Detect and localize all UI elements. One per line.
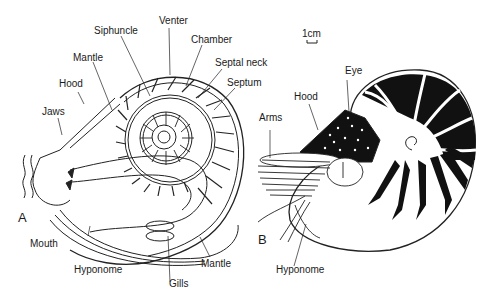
- label-scale-bar: 1cm: [302, 29, 321, 39]
- panel-a-shell: [70, 77, 244, 264]
- label-gills: Gills: [169, 279, 188, 289]
- label-jaws: Jaws: [42, 107, 65, 117]
- label-siphuncle: Siphuncle: [94, 26, 138, 36]
- label-hood-b: Hood: [294, 92, 318, 102]
- panel-label-b: B: [258, 233, 267, 246]
- label-hyponome-a: Hyponome: [74, 265, 122, 275]
- label-mouth: Mouth: [30, 239, 58, 249]
- label-chamber: Chamber: [191, 35, 232, 45]
- label-mantle-top: Mantle: [73, 53, 103, 63]
- label-hood-a: Hood: [59, 79, 83, 89]
- label-venter: Venter: [159, 16, 188, 26]
- diagram-drawing: [0, 0, 489, 299]
- scale-bar: [307, 40, 317, 43]
- panel-label-a: A: [18, 211, 27, 224]
- label-septum: Septum: [227, 78, 261, 88]
- label-eye: Eye: [345, 66, 362, 76]
- label-mantle-bottom: Mantle: [201, 259, 231, 269]
- nautilus-anatomy-figure: Venter Siphuncle Chamber Mantle Septal n…: [0, 0, 489, 299]
- label-arms: Arms: [259, 113, 282, 123]
- label-septal-neck: Septal neck: [215, 58, 267, 68]
- label-hyponome-b: Hyponome: [276, 265, 324, 275]
